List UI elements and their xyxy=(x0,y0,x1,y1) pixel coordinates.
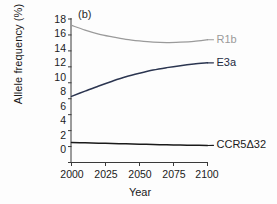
y-tick-label: 18 xyxy=(42,14,66,24)
y-tick-label: 12 xyxy=(42,57,66,67)
series-line-ccr532 xyxy=(72,142,208,145)
allele-frequency-chart: Allele frequency (%) 18 16 14 12 10 8 6 … xyxy=(0,0,277,204)
x-tick-label: 2100 xyxy=(185,168,229,180)
y-tick-label: 10 xyxy=(42,72,66,82)
panel-label: (b) xyxy=(78,8,91,20)
y-tick-label: 2 xyxy=(42,130,66,140)
series-label-ccr5: CCR5Δ32 xyxy=(217,138,267,150)
y-tick-label: 14 xyxy=(42,43,66,53)
series-label-e3a: E3a xyxy=(217,56,237,68)
y-tick-label: 6 xyxy=(42,101,66,111)
series-paths-group xyxy=(72,25,214,145)
y-axis-title: Allele frequency (%) xyxy=(12,0,24,124)
y-tick-label: 16 xyxy=(42,28,66,38)
x-axis-title: Year xyxy=(72,186,208,198)
y-tick-label: 4 xyxy=(42,115,66,125)
y-tick-label: 0 xyxy=(42,144,66,154)
series-line-r1b xyxy=(72,25,208,42)
y-tick-label: 8 xyxy=(42,86,66,96)
series-label-r1b: R1b xyxy=(217,33,237,45)
x-axis-ticks xyxy=(72,163,208,167)
series-line-e3a xyxy=(72,63,208,96)
